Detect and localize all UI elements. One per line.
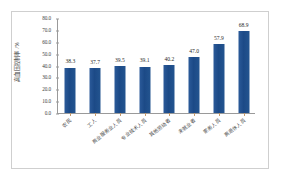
bar-value-label: 38.3 [65,59,75,65]
bar[interactable] [139,67,150,113]
bar[interactable] [164,65,175,113]
bar[interactable] [90,68,101,113]
x-axis-label-slot: 家务人员 [206,116,231,168]
chart-figure: 高血压控制率 /% 80.070.060.050.040.030.020.010… [11,11,269,169]
y-axis-tick-label: 40.0 [42,64,51,69]
bar-value-label: 47.0 [189,49,199,55]
bar[interactable] [213,44,224,113]
bar-value-label: 39.1 [140,58,150,64]
y-axis-tick-label: 80.0 [42,16,51,21]
x-axis-tick-label: 家务人员 [202,118,221,135]
x-axis-label-slot: 其他劳动者 [156,116,181,168]
y-axis-tick-labels: 80.070.060.050.040.030.020.010.00.0 [12,19,55,114]
plot-area: 38.337.739.539.140.247.057.968.9 [57,19,255,114]
bar-value-label: 40.2 [164,57,174,63]
bar[interactable] [189,57,200,113]
bar[interactable] [65,68,76,113]
bar-group: 57.9 [207,19,232,113]
x-axis-tick-label: 农民 [62,118,73,128]
bar[interactable] [238,31,249,113]
x-axis-label-slot: 离退休人员 [230,116,255,168]
bar[interactable] [114,66,125,113]
x-axis-tick-label: 工人 [86,118,97,128]
x-axis-tick-labels: 农民工人商业服务业人员专业技术人员其他劳动者未就业者家务人员离退休人员 [57,116,255,168]
y-axis-tick-label: 60.0 [42,40,51,45]
y-axis-tick-label: 30.0 [42,76,51,81]
bar-group: 38.3 [58,19,83,113]
bar-group: 39.5 [108,19,133,113]
bar-group: 68.9 [231,19,256,113]
y-axis-tick-label: 20.0 [42,88,51,93]
bar-value-label: 39.5 [115,58,125,64]
bar-group: 37.7 [83,19,108,113]
bar-group: 40.2 [157,19,182,113]
bar-value-label: 68.9 [239,23,249,29]
bar-group: 47.0 [182,19,207,113]
y-axis-tick-label: 0.0 [45,111,51,116]
y-axis-tick-label: 50.0 [42,52,51,57]
bar-value-label: 57.9 [214,36,224,42]
x-axis-label-slot: 未就业者 [181,116,206,168]
bar-group: 39.1 [132,19,157,113]
bar-value-label: 37.7 [90,60,100,66]
x-axis-tick-label: 未就业者 [177,118,196,135]
y-axis-tick-label: 70.0 [42,28,51,33]
y-axis-tick-label: 10.0 [42,100,51,105]
x-axis-label-slot: 农民 [57,116,82,168]
x-axis-label-slot: 商业服务业人员 [107,116,132,168]
x-axis-label-slot: 专业技术人员 [131,116,156,168]
